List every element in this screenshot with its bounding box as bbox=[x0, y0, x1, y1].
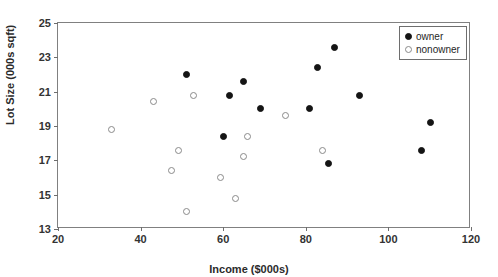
x-tick-mark bbox=[306, 227, 307, 231]
data-point-nonowner bbox=[217, 174, 224, 181]
data-point-owner bbox=[418, 147, 425, 154]
legend-item-label: owner bbox=[416, 31, 443, 42]
data-point-owner bbox=[226, 92, 233, 99]
data-point-owner bbox=[183, 71, 190, 78]
scatter-plot-figure: Lot Size (000s sqft) 13151719212325 2040… bbox=[0, 0, 498, 277]
x-tick-label: 20 bbox=[52, 233, 64, 245]
x-tick-label: 100 bbox=[379, 233, 397, 245]
x-tick-mark bbox=[471, 227, 472, 231]
x-tick-mark bbox=[388, 227, 389, 231]
legend-item-owner: owner bbox=[405, 30, 460, 43]
y-tick-label: 17 bbox=[39, 154, 51, 166]
chart-legend: ownernonowner bbox=[399, 26, 467, 60]
data-point-owner bbox=[314, 64, 321, 71]
x-tick-label: 120 bbox=[462, 233, 480, 245]
data-point-nonowner bbox=[108, 126, 115, 133]
x-tick-mark bbox=[141, 227, 142, 231]
y-tick-mark bbox=[54, 23, 58, 24]
owner-marker-icon bbox=[405, 33, 412, 40]
data-point-nonowner bbox=[244, 133, 251, 140]
y-tick-label: 15 bbox=[39, 189, 51, 201]
legend-item-label: nonowner bbox=[416, 44, 460, 55]
x-tick-mark bbox=[58, 227, 59, 231]
data-point-nonowner bbox=[190, 92, 197, 99]
data-point-nonowner bbox=[282, 112, 289, 119]
data-point-nonowner bbox=[150, 98, 157, 105]
x-tick-label: 40 bbox=[134, 233, 146, 245]
data-point-nonowner bbox=[168, 167, 175, 174]
y-tick-mark bbox=[54, 160, 58, 161]
data-point-nonowner bbox=[183, 208, 190, 215]
data-point-owner bbox=[306, 105, 313, 112]
data-point-owner bbox=[325, 160, 332, 167]
data-point-owner bbox=[220, 133, 227, 140]
x-axis-title: Income ($000s) bbox=[0, 263, 498, 275]
data-point-owner bbox=[331, 44, 338, 51]
nonowner-marker-icon bbox=[405, 46, 412, 53]
data-point-owner bbox=[356, 92, 363, 99]
data-point-owner bbox=[257, 105, 264, 112]
legend-item-nonowner: nonowner bbox=[405, 43, 460, 56]
y-axis-title: Lot Size (000s sqft) bbox=[4, 25, 16, 125]
y-tick-label: 13 bbox=[39, 223, 51, 235]
data-point-nonowner bbox=[175, 147, 182, 154]
data-point-nonowner bbox=[240, 153, 247, 160]
y-tick-label: 19 bbox=[39, 120, 51, 132]
y-tick-label: 21 bbox=[39, 86, 51, 98]
x-tick-mark bbox=[223, 227, 224, 231]
data-point-owner bbox=[427, 119, 434, 126]
data-point-nonowner bbox=[319, 147, 326, 154]
x-tick-label: 60 bbox=[217, 233, 229, 245]
y-tick-mark bbox=[54, 92, 58, 93]
data-point-owner bbox=[240, 78, 247, 85]
x-tick-label: 80 bbox=[300, 233, 312, 245]
y-tick-label: 25 bbox=[39, 17, 51, 29]
y-tick-mark bbox=[54, 195, 58, 196]
data-point-nonowner bbox=[232, 195, 239, 202]
y-tick-mark bbox=[54, 57, 58, 58]
y-tick-label: 23 bbox=[39, 51, 51, 63]
y-tick-mark bbox=[54, 126, 58, 127]
